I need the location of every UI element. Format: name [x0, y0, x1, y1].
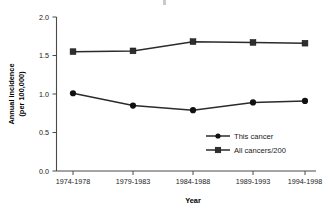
cropped-title-artifact — [163, 0, 166, 5]
x-axis-title: Year — [185, 196, 201, 205]
legend-label-this-cancer: This cancer — [234, 132, 274, 141]
y-tick-label-4: 2.0 — [39, 13, 49, 22]
series-all-cancers-line — [73, 42, 305, 52]
data-point-square — [130, 48, 136, 54]
y-tick-label-1: 0.5 — [39, 128, 49, 137]
line-chart: 0.0 0.5 1.0 1.5 2.0 Annual incidence (pe… — [0, 0, 327, 213]
y-axis-title-line1: Annual incidence — [7, 63, 16, 124]
x-tick-label-1: 1979-1983 — [116, 177, 150, 186]
x-axis-ticks — [73, 171, 305, 175]
data-point-square — [302, 40, 308, 46]
y-tick-label-3: 1.5 — [39, 51, 49, 60]
series-this-cancer-line — [73, 93, 305, 110]
legend-label-all-cancers: All cancers/200 — [234, 146, 286, 155]
legend-item-this-cancer[interactable]: This cancer — [206, 132, 274, 141]
data-point-circle — [130, 102, 136, 108]
legend-item-all-cancers[interactable]: All cancers/200 — [206, 146, 286, 155]
series-all-cancers-markers — [70, 39, 308, 55]
chart-figure: 0.0 0.5 1.0 1.5 2.0 Annual incidence (pe… — [0, 0, 327, 213]
y-axis-title: Annual incidence (per 100,000) — [7, 63, 26, 124]
data-point-circle — [70, 90, 76, 96]
y-tick-label-0: 0.0 — [39, 167, 49, 176]
x-tick-label-2: 1984-1988 — [176, 177, 210, 186]
x-tick-label-3: 1989-1993 — [236, 177, 270, 186]
data-point-circle — [302, 98, 308, 104]
y-tick-label-2: 1.0 — [39, 90, 49, 99]
y-axis-title-line2: (per 100,000) — [17, 71, 26, 117]
chart-legend: This cancer All cancers/200 — [206, 132, 286, 155]
x-tick-label-0: 1974-1978 — [56, 177, 90, 186]
data-point-circle — [190, 107, 196, 113]
legend-marker-square-icon — [215, 147, 221, 153]
data-point-square — [190, 39, 196, 45]
x-tick-label-4: 1994-1998 — [288, 177, 322, 186]
data-point-square — [250, 40, 256, 46]
legend-marker-circle-icon — [215, 133, 220, 138]
y-axis-ticks — [53, 17, 57, 171]
data-point-square — [70, 49, 76, 55]
data-point-circle — [250, 99, 256, 105]
